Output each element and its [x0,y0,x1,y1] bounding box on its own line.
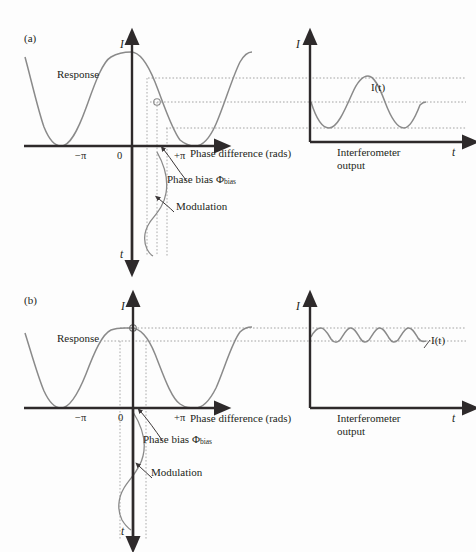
panel-a-tick-minus-pi: −π [75,150,86,161]
panel-b-tick-zero: 0 [118,412,123,423]
figure-background [0,0,476,552]
panel-b-phase-bias-symbol: Φ [192,433,200,445]
panel-b-output-caption-line1: Interferometer [337,412,401,424]
panel-b-output-caption-line2: output [337,425,365,437]
panel-b-right-y-axis-label: I [296,300,300,312]
panel-a-phase-bias-subscript: bias [224,177,236,186]
panel-b-tick-plus-pi: +π [174,412,185,423]
panel-b-tag: (b) [24,294,37,306]
panel-b-phase-bias-subscript: bias [200,437,212,446]
panel-a-tag: (a) [24,32,36,44]
panel-a-right-x-axis-label: t [452,146,455,158]
panel-a-signal-label: I(t) [371,81,385,93]
panel-a-response-label: Response [57,68,99,80]
panel-b-response-label: Response [57,332,99,344]
panel-b-phase-bias-annotation: Phase bias Φbias [143,433,212,446]
panel-a-y-axis-label: I [120,38,124,50]
figure-canvas [0,0,476,552]
panel-a-x-axis-label: Phase difference (rads) [190,147,291,159]
panel-a-right-y-axis-label: I [296,38,300,50]
panel-a-modulation-label: Modulation [176,200,227,212]
panel-b-t-axis-label: t [121,525,124,537]
panel-a-phase-bias-symbol: Φ [216,173,224,185]
panel-a-output-caption-line1: Interferometer [337,146,401,158]
panel-a-phase-bias-text: Phase bias [167,173,213,185]
panel-b-modulation-label: Modulation [151,466,202,478]
panel-a-t-axis-label: t [120,248,123,260]
panel-b-y-axis-label: I [121,300,125,312]
panel-a-output-caption-line2: output [337,159,365,171]
panel-a-phase-bias-annotation: Phase bias Φbias [167,173,236,186]
panel-b-tick-minus-pi: −π [75,412,86,423]
panel-b-signal-label: I(t) [431,334,445,346]
panel-b-x-axis-label: Phase difference (rads) [190,412,291,424]
panel-b-phase-bias-text: Phase bias [143,433,189,445]
panel-a-tick-zero: 0 [117,150,122,161]
panel-b-right-x-axis-label: t [452,412,455,424]
panel-a-tick-plus-pi: +π [174,150,185,161]
